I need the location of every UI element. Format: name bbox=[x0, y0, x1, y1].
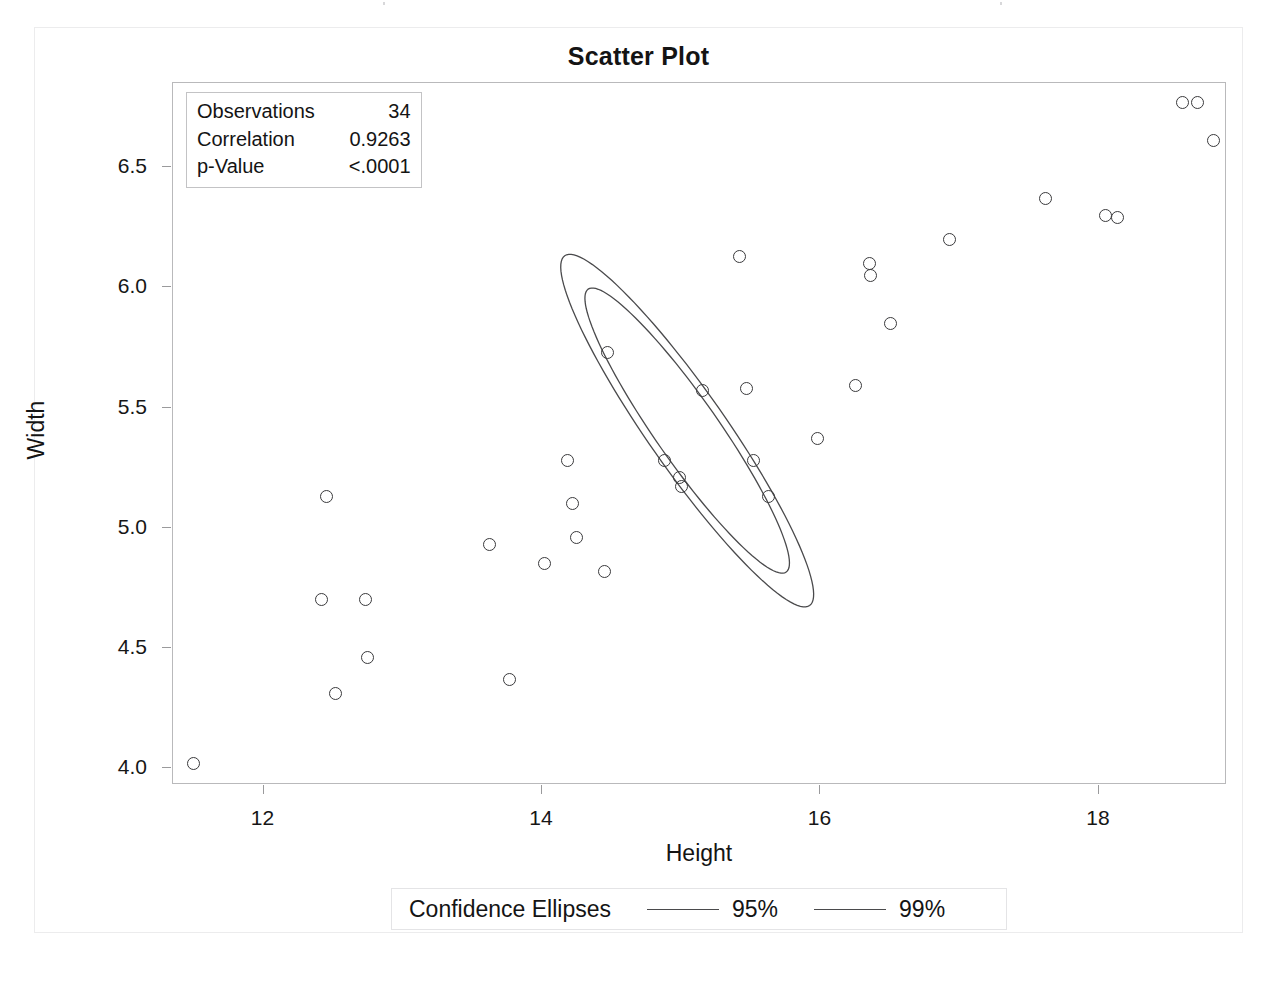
legend-entry: 99% bbox=[814, 896, 945, 923]
statistics-table: Observations34Correlation0.9263p-Value<.… bbox=[197, 98, 411, 181]
data-point bbox=[320, 490, 333, 503]
data-point bbox=[675, 480, 688, 493]
data-point bbox=[566, 497, 579, 510]
x-tick-label: 16 bbox=[808, 806, 831, 830]
data-point bbox=[601, 346, 614, 359]
legend-title: Confidence Ellipses bbox=[409, 896, 611, 923]
data-points-layer bbox=[173, 83, 1225, 783]
y-tick-label: 4.5 bbox=[27, 635, 147, 659]
data-point bbox=[483, 538, 496, 551]
y-tick-label: 5.0 bbox=[27, 515, 147, 539]
y-tick-mark bbox=[162, 166, 171, 167]
data-point bbox=[762, 490, 775, 503]
data-point bbox=[570, 531, 583, 544]
data-point bbox=[884, 317, 897, 330]
y-tick-mark bbox=[162, 527, 171, 528]
y-tick-mark bbox=[162, 647, 171, 648]
y-tick-mark bbox=[162, 767, 171, 768]
x-tick-label: 14 bbox=[529, 806, 552, 830]
data-point bbox=[503, 673, 516, 686]
y-tick-mark bbox=[162, 286, 171, 287]
y-tick-mark bbox=[162, 407, 171, 408]
statistic-value: 0.9263 bbox=[349, 126, 411, 154]
legend-label: 99% bbox=[899, 896, 945, 923]
statistics-row: Observations34 bbox=[197, 98, 411, 126]
top-edge-artifact bbox=[383, 2, 385, 5]
page-title: Scatter Plot bbox=[0, 42, 1277, 71]
legend-entry: 95% bbox=[647, 896, 778, 923]
statistics-row: p-Value<.0001 bbox=[197, 153, 411, 181]
legend-label: 95% bbox=[732, 896, 778, 923]
data-point bbox=[598, 565, 611, 578]
data-point bbox=[1111, 211, 1124, 224]
data-point bbox=[1176, 96, 1189, 109]
data-point bbox=[1207, 134, 1220, 147]
y-tick-label: 6.5 bbox=[27, 154, 147, 178]
data-point bbox=[811, 432, 824, 445]
data-point bbox=[187, 757, 200, 770]
legend-line-swatch bbox=[814, 909, 886, 910]
legend: Confidence Ellipses 95%99% bbox=[391, 888, 1007, 930]
data-point bbox=[1039, 192, 1052, 205]
statistic-value: <.0001 bbox=[349, 153, 411, 181]
top-edge-artifact bbox=[1000, 2, 1002, 5]
x-tick-label: 18 bbox=[1086, 806, 1109, 830]
y-tick-label: 6.0 bbox=[27, 274, 147, 298]
x-axis-title: Height bbox=[172, 840, 1226, 867]
data-point bbox=[849, 379, 862, 392]
statistic-value: 34 bbox=[349, 98, 411, 126]
data-point bbox=[359, 593, 372, 606]
x-tick-label: 12 bbox=[251, 806, 274, 830]
data-point bbox=[538, 557, 551, 570]
x-tick-mark bbox=[1098, 785, 1099, 794]
data-point bbox=[561, 454, 574, 467]
data-point bbox=[943, 233, 956, 246]
x-tick-mark bbox=[819, 785, 820, 794]
chart-canvas: Scatter Plot Width 4.04.55.05.56.06.5 12… bbox=[0, 0, 1277, 992]
data-point bbox=[864, 269, 877, 282]
data-point bbox=[1191, 96, 1204, 109]
statistic-label: Correlation bbox=[197, 126, 349, 154]
data-point bbox=[740, 382, 753, 395]
statistic-label: p-Value bbox=[197, 153, 349, 181]
statistics-box: Observations34Correlation0.9263p-Value<.… bbox=[186, 92, 422, 188]
data-point bbox=[733, 250, 746, 263]
data-point bbox=[329, 687, 342, 700]
x-tick-mark bbox=[541, 785, 542, 794]
y-tick-label: 4.0 bbox=[27, 755, 147, 779]
data-point bbox=[863, 257, 876, 270]
legend-line-swatch bbox=[647, 909, 719, 910]
data-point bbox=[696, 384, 709, 397]
data-point bbox=[315, 593, 328, 606]
statistics-row: Correlation0.9263 bbox=[197, 126, 411, 154]
data-point bbox=[747, 454, 760, 467]
data-point bbox=[361, 651, 374, 664]
x-tick-mark bbox=[263, 785, 264, 794]
y-tick-label: 5.5 bbox=[27, 395, 147, 419]
data-point bbox=[658, 454, 671, 467]
statistic-label: Observations bbox=[197, 98, 349, 126]
